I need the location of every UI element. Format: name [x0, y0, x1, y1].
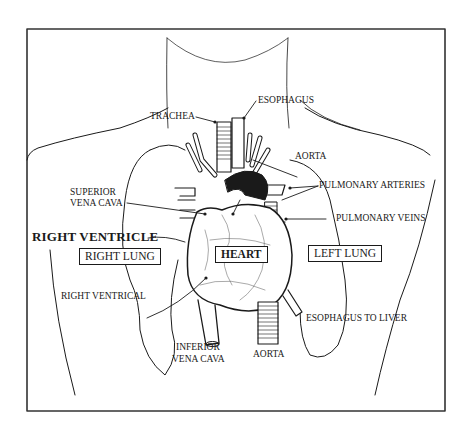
label-esophagus: ESOPHAGUS	[258, 96, 314, 106]
label-heart: HEART	[215, 246, 268, 263]
label-superior-vena-cava-2: VENA CAVA	[70, 199, 123, 209]
label-right-ventrical: RIGHT VENTRICAL	[61, 292, 146, 302]
neck-outline	[167, 38, 288, 62]
label-right-lung: RIGHT LUNG	[79, 248, 161, 265]
label-aorta-bottom: AORTA	[253, 350, 284, 360]
label-esophagus-to-liver: ESOPHAGUS TO LIVER	[306, 314, 407, 324]
label-trachea: TRACHEA	[150, 112, 195, 122]
label-pulmonary-veins: PULMONARY VEINS	[336, 214, 425, 224]
label-pulmonary-arteries: PULMONARY ARTERIES	[319, 181, 425, 191]
label-left-lung: LEFT LUNG	[308, 245, 382, 262]
label-inferior-vena-cava-2: VENA CAVA	[172, 355, 225, 365]
label-inferior-vena-cava-1: INFERIOR	[176, 343, 220, 353]
label-aorta-top: AORTA	[295, 152, 326, 162]
label-superior-vena-cava-1: SUPERIOR	[70, 188, 116, 198]
anatomy-diagram: TRACHEA ESOPHAGUS AORTA PULMONARY ARTERI…	[0, 0, 472, 439]
label-right-ventricle: RIGHT VENTRICLE	[32, 230, 158, 243]
